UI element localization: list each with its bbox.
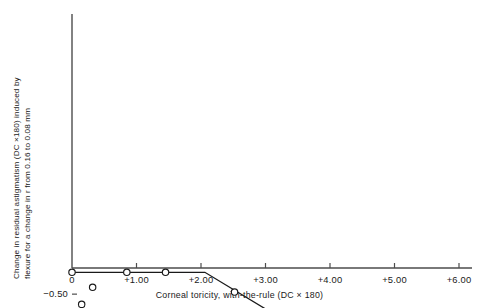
data-point-marker — [162, 269, 168, 275]
data-point-marker — [231, 289, 237, 295]
data-point-marker — [124, 269, 130, 275]
plot-area — [0, 0, 479, 308]
chart-figure: Change in residual astigmatism (DC ×180)… — [0, 0, 479, 308]
data-point-marker — [89, 284, 95, 290]
data-point-marker — [69, 269, 75, 275]
fitted-line — [72, 272, 459, 308]
data-point-marker — [78, 301, 84, 307]
